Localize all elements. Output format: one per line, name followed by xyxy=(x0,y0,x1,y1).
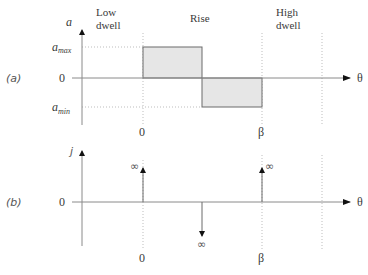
impulse-label-zero: ∞ xyxy=(130,160,139,173)
x-tick-zero-b: 0 xyxy=(139,251,145,265)
panel-a: (a) a θ amax 0 amin 0 β Low dwell Rise H… xyxy=(6,6,363,139)
x-tick-beta-b: β xyxy=(258,251,264,265)
panel-a-label: (a) xyxy=(6,72,21,85)
accel-negative-block xyxy=(202,78,262,107)
x-axis-label-a: θ xyxy=(357,71,363,85)
y-axis-label-a: a xyxy=(66,15,72,29)
x-tick-zero-a: 0 xyxy=(139,125,145,139)
y-axis-label-b: j xyxy=(68,145,74,158)
region-low-dwell: Low dwell xyxy=(96,6,120,31)
tick-zero-b: 0 xyxy=(59,195,65,209)
panel-b: ∞ ∞ ∞ (b) j 0 θ 0 β xyxy=(6,145,363,265)
accel-positive-block xyxy=(143,47,202,78)
region-rise: Rise xyxy=(190,12,210,24)
panel-b-label: (b) xyxy=(6,196,22,209)
tick-amax: amax xyxy=(52,40,72,55)
diagram-canvas: (a) a θ amax 0 amin 0 β Low dwell Rise H… xyxy=(0,0,368,275)
impulse-label-beta: ∞ xyxy=(265,160,274,173)
tick-amin: amin xyxy=(52,100,70,116)
x-axis-label-b: θ xyxy=(357,195,363,209)
impulse-label-mid: ∞ xyxy=(197,238,206,251)
x-tick-beta-a: β xyxy=(258,125,264,139)
tick-zero-a: 0 xyxy=(59,71,65,85)
region-high-dwell: High dwell xyxy=(276,6,301,31)
